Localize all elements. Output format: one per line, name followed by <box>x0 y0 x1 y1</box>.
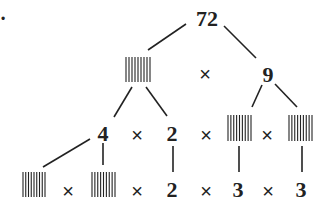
factor-number: 9 <box>263 62 274 87</box>
root-number: 72 <box>196 6 218 31</box>
times-operator: × <box>131 180 143 202</box>
factor-number: 4 <box>98 121 109 146</box>
times-operator: × <box>199 63 211 85</box>
blank-box[interactable] <box>92 172 115 197</box>
level-1: × 9 <box>126 57 274 87</box>
times-operator: × <box>131 124 143 146</box>
blank-box[interactable] <box>23 172 45 197</box>
times-operator: × <box>262 180 274 202</box>
times-operator: × <box>62 180 74 202</box>
edge-4-to-blank-left <box>43 139 90 167</box>
blank-box[interactable] <box>126 57 150 82</box>
times-operator: × <box>200 124 212 146</box>
edge-9-to-blank <box>252 85 262 107</box>
edge-72-to-9 <box>224 26 256 58</box>
tree-edges <box>43 24 302 172</box>
level-2: 4 × 2 × × <box>98 115 313 146</box>
bullet-marker: • <box>1 12 5 26</box>
blank-box[interactable] <box>289 115 312 141</box>
factor-number: 2 <box>167 177 178 202</box>
times-operator: × <box>200 180 212 202</box>
edge-72-to-blank <box>148 24 186 50</box>
factor-tree-diagram: • 72 × 9 4 × 2 × × × × 2 × 3 <box>0 0 325 205</box>
edge-blank-to-2 <box>146 87 167 116</box>
factor-number: 3 <box>233 177 244 202</box>
level-3: × × 2 × 3 × 3 <box>23 172 307 202</box>
blank-box[interactable] <box>228 115 251 141</box>
edge-9-to-blank-right <box>275 84 297 107</box>
factor-number: 2 <box>167 121 178 146</box>
edge-blank-to-4 <box>114 87 132 117</box>
times-operator: × <box>261 124 273 146</box>
factor-number: 3 <box>296 177 307 202</box>
